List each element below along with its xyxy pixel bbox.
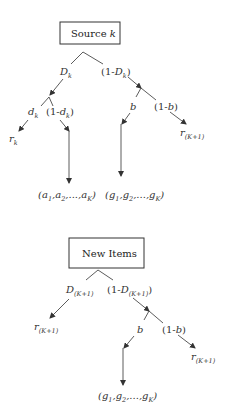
edge-node-to-b xyxy=(136,88,141,97)
leaf-g-vector-label: (g1,g2,...,gK) xyxy=(105,189,164,203)
leaf-g-vector-label: (g1,g2,...,gK) xyxy=(98,390,157,404)
branch-1-minus-dk-label: (1-dk) xyxy=(46,106,74,120)
branch-1-minus-b-label: (1-b) xyxy=(162,324,186,335)
arrow-dk-to-rk xyxy=(19,120,28,131)
leaf-left-rK1-label: r(K+1) xyxy=(34,321,59,335)
edge-node-to-b xyxy=(144,311,149,320)
edge-node-to-1-b xyxy=(141,88,156,100)
branch-DK1-label: D(K+1) xyxy=(65,284,94,298)
arrow-b-bend xyxy=(122,113,130,124)
edge-root-to-1-DK1 xyxy=(98,270,113,280)
source-k-tree: Source k Dk (1-Dk) dk (1-dk) rk (a1,a2,.… xyxy=(9,22,205,203)
branch-b-label: b xyxy=(130,101,136,112)
edge-root-to-1-Dk xyxy=(83,52,103,64)
branch-b-label: b xyxy=(137,324,143,335)
edge-node-to-dk xyxy=(41,97,49,106)
edge-root-to-DK1 xyxy=(86,270,98,280)
branch-Dk-label: Dk xyxy=(59,66,72,80)
edge-root-to-Dk xyxy=(71,52,83,64)
leaf-a-vector-label: (a1,a2,...,aK) xyxy=(38,189,96,203)
arrow-1-b-to-rK1 xyxy=(178,335,195,348)
new-items-label: New Items xyxy=(82,248,137,259)
branch-1-minus-Dk-label: (1-Dk) xyxy=(101,66,131,80)
leaf-rk-label: rk xyxy=(9,133,18,147)
arrow-1-Dk-to-node xyxy=(128,77,141,88)
arrow-1-b-to-rK1 xyxy=(170,112,186,124)
arrow-1-DK1-to-node xyxy=(133,298,149,311)
arrow-DK1-to-rK1 xyxy=(50,299,69,318)
branch-1-minus-DK1-label: (1-D(K+1)) xyxy=(107,284,152,298)
arrow-Dk-to-node xyxy=(50,79,63,95)
edge-node-to-1-dk xyxy=(49,97,53,106)
arrow-1-dk-bend xyxy=(60,120,69,131)
leaf-right-rK1-label: r(K+1) xyxy=(191,351,216,365)
new-items-tree: New Items D(K+1) (1-D(K+1)) r(K+1) b (1-… xyxy=(34,238,216,404)
probability-tree-diagrams: Source k Dk (1-Dk) dk (1-dk) rk (a1,a2,.… xyxy=(0,0,225,415)
edge-node-to-1-b xyxy=(149,311,163,323)
branch-dk-label: dk xyxy=(28,106,38,120)
arrow-b-bend xyxy=(124,336,134,348)
leaf-rK1-label: r(K+1) xyxy=(180,127,205,141)
branch-1-minus-b-label: (1-b) xyxy=(154,101,178,112)
source-k-label: Source k xyxy=(71,28,116,39)
